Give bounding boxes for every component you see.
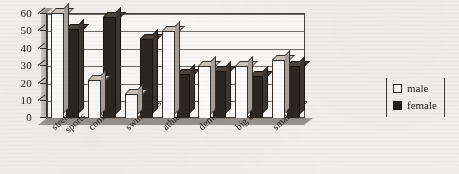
legend-item-female: female xyxy=(393,98,437,113)
x-axis-labels: strengthsportscombatswimmingathleticsdem… xyxy=(0,124,330,174)
y-tick-20: 20 xyxy=(40,83,46,84)
bar-group xyxy=(272,13,309,118)
legend-item-male: male xyxy=(393,81,437,96)
bar-male xyxy=(198,66,211,119)
y-tick-label-50: 50 xyxy=(21,25,32,36)
y-tick-label-10: 10 xyxy=(21,95,32,106)
bar-male xyxy=(125,94,138,119)
bar-male xyxy=(162,31,175,119)
bar-chart: 60 50 40 30 20 10 0 strengthsportscombat… xyxy=(0,0,459,174)
chart-legend: male female xyxy=(386,78,445,117)
y-tick-60: 60 xyxy=(40,13,46,14)
y-tick-label-30: 30 xyxy=(21,60,32,71)
bar-group xyxy=(51,13,88,118)
y-tick-0: 0 xyxy=(40,117,46,118)
bar-male xyxy=(51,13,64,118)
legend-label-female: female xyxy=(407,100,437,111)
bar-male xyxy=(272,60,285,118)
y-tick-10: 10 xyxy=(40,100,46,101)
bar-male xyxy=(235,66,248,119)
bar-group xyxy=(125,13,162,118)
y-tick-40: 40 xyxy=(40,48,46,49)
legend-swatch-female-icon xyxy=(393,101,402,110)
y-tick-label-40: 40 xyxy=(21,43,32,54)
legend-label-male: male xyxy=(407,83,428,94)
y-tick-label-60: 60 xyxy=(21,8,32,19)
bar-group xyxy=(235,13,272,118)
bar-groups xyxy=(47,13,305,118)
legend-swatch-male-icon xyxy=(393,84,402,93)
y-tick-label-0: 0 xyxy=(26,112,32,123)
bar-group xyxy=(88,13,125,118)
y-tick-50: 50 xyxy=(40,30,46,31)
bar-group xyxy=(198,13,235,118)
y-tick-30: 30 xyxy=(40,65,46,66)
bar-group xyxy=(162,13,199,118)
bar-male xyxy=(88,80,101,119)
y-tick-label-20: 20 xyxy=(21,78,32,89)
